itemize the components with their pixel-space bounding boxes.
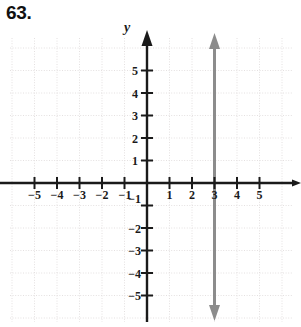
x-tick-label: −2 (96, 188, 109, 202)
y-tick-label: −4 (128, 267, 141, 281)
x-tick-label: 5 (257, 188, 263, 202)
y-axis (142, 30, 153, 322)
y-tick-label: 5 (132, 64, 138, 78)
y-axis-label: y (122, 20, 131, 35)
x-axis (0, 180, 301, 187)
grid-lines (10, 38, 292, 322)
y-tick-label: −1 (128, 192, 141, 206)
x-tick-label: 2 (189, 188, 195, 202)
y-tick-label: 3 (132, 109, 138, 123)
y-tick-label: −5 (128, 289, 141, 303)
x-tick-labels: −5 −4 −3 −2 −1 1 2 3 4 5 (28, 188, 262, 202)
y-tick-label: −2 (128, 222, 141, 236)
x-tick-label: −4 (51, 188, 64, 202)
worksheet-page: 63. (0, 0, 301, 327)
y-tick-label: −3 (128, 244, 141, 258)
y-tick-label: 4 (132, 87, 138, 101)
y-tick-label: 1 (132, 154, 138, 168)
x-tick-label: 4 (234, 188, 240, 202)
x-tick-label: 3 (212, 188, 218, 202)
graph-svg: y −5 −4 −3 −2 −1 1 2 3 4 5 5 4 3 2 1 (0, 0, 301, 327)
y-tick-label: 2 (132, 132, 138, 146)
x-tick-label: −3 (73, 188, 86, 202)
x-tick-label: −5 (28, 188, 41, 202)
coordinate-graph: y −5 −4 −3 −2 −1 1 2 3 4 5 5 4 3 2 1 (0, 0, 301, 327)
x-tick-label: 1 (167, 188, 173, 202)
